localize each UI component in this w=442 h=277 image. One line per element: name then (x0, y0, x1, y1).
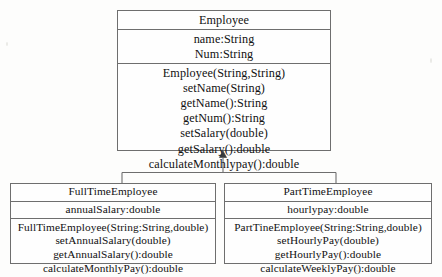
operation-row: setAnnualSalary(double) (14, 234, 212, 248)
class-name-compartment-fulltimeemployee: FullTimeEmployee (11, 184, 215, 202)
operations-compartment-parttimeemployee: PartTineEmployee(String:String,double) s… (225, 219, 431, 277)
scan-artifact (6, 42, 8, 46)
attribute-row: hourlypay:double (228, 203, 428, 217)
class-box-parttimeemployee[interactable]: PartTimeEmployee hourlypay:double PartTi… (224, 183, 432, 264)
attribute-row: Num:String (121, 46, 327, 61)
class-name-compartment-parttimeemployee: PartTimeEmployee (225, 184, 431, 202)
operations-compartment-fulltimeemployee: FullTimeEmployee(String:String,double) s… (11, 219, 215, 277)
operation-row: calculateWeeklyPay():double (228, 261, 428, 275)
attributes-compartment-employee: name:String Num:String (118, 30, 330, 64)
class-name-employee: Employee (121, 12, 327, 27)
operation-row: setName(String) (121, 81, 327, 96)
scan-artifact (63, 268, 68, 270)
operation-row: getAnnualSalary():double (14, 248, 212, 262)
operation-row: PartTineEmployee(String:String,double) (228, 220, 428, 234)
class-name-parttimeemployee: PartTimeEmployee (228, 185, 428, 199)
class-name-compartment-employee: Employee (118, 11, 330, 30)
class-box-employee[interactable]: Employee name:String Num:String Employee… (117, 10, 331, 151)
class-name-fulltimeemployee: FullTimeEmployee (14, 185, 212, 199)
operation-row: getNum():String (121, 111, 327, 126)
operation-row: getName():String (121, 96, 327, 111)
operation-row: getSalary():double (121, 141, 327, 156)
operation-row: FullTimeEmployee(String:String,double) (14, 220, 212, 234)
attribute-row: name:String (121, 31, 327, 46)
scan-artifact (430, 58, 432, 63)
operation-row: calculateMonthlypay():double (121, 156, 327, 171)
scan-artifact (355, 270, 359, 272)
operation-row: setHourlyPay(double) (228, 234, 428, 248)
operation-row: calculateMonthlyPay():double (14, 261, 212, 275)
class-box-fulltimeemployee[interactable]: FullTimeEmployee annualSalary:double Ful… (10, 183, 216, 264)
attributes-compartment-fulltimeemployee: annualSalary:double (11, 202, 215, 220)
attribute-row: annualSalary:double (14, 203, 212, 217)
operation-row: setSalary(double) (121, 126, 327, 141)
operations-compartment-employee: Employee(String,String) setName(String) … (118, 64, 330, 173)
operation-row: Employee(String,String) (121, 65, 327, 80)
attributes-compartment-parttimeemployee: hourlypay:double (225, 202, 431, 220)
operation-row: getHourlyPay():double (228, 248, 428, 262)
